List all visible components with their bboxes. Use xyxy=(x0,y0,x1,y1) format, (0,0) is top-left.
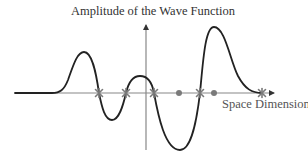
wave-function-diagram: Amplitude of the Wave Function Space Dim… xyxy=(0,0,308,163)
y-axis-title: Amplitude of the Wave Function xyxy=(71,4,236,18)
wave-function-curve xyxy=(15,27,262,150)
dot-marker-icon xyxy=(211,90,217,96)
dot-marker-icon xyxy=(176,90,182,96)
x-axis-label: Space Dimension xyxy=(222,97,308,111)
